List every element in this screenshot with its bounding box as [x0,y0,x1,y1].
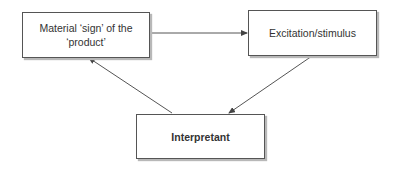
node-excitation-stimulus-label: Excitation/stimulus [269,26,356,40]
node-material-sign-line1: Material ‘sign’ of the [40,21,133,35]
node-material-sign-line2: ‘product’ [40,35,133,49]
arrow-stimulus-to-interpretant [229,56,312,113]
node-excitation-stimulus: Excitation/stimulus [248,10,377,56]
node-interpretant: Interpretant [136,114,265,159]
arrow-interpretant-to-sign [89,58,172,113]
node-interpretant-label: Interpretant [171,130,229,144]
node-material-sign: Material ‘sign’ of the ‘product’ [22,12,150,58]
